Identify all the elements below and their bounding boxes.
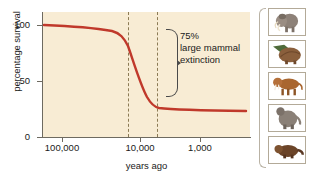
sabre-toothed-cat-icon xyxy=(269,73,305,99)
survival-chart: 100 50 0 percentage survival 100,000 10,… xyxy=(0,0,256,182)
survival-curve xyxy=(0,0,256,182)
extinct-animal-thumbnails xyxy=(256,0,312,182)
annotation-line-1: 75% xyxy=(180,30,240,42)
extinction-bracket xyxy=(166,29,178,97)
mammoth-icon xyxy=(269,9,305,35)
thumbnail-glyptodont xyxy=(268,40,306,68)
figure-root: 100 50 0 percentage survival 100,000 10,… xyxy=(0,0,312,182)
extinction-annotation: 75% large mammal extinction xyxy=(180,30,240,66)
annotation-line-2: large mammal xyxy=(180,42,240,54)
thumbnail-sabre-toothed-cat xyxy=(268,72,306,100)
giant-beaver-icon xyxy=(269,137,305,163)
glyptodont-icon xyxy=(269,41,305,67)
giant-ground-sloth-icon xyxy=(269,105,305,131)
annotation-line-3: extinction xyxy=(180,54,240,66)
thumbnail-mammoth xyxy=(268,8,306,36)
thumbnail-bracket xyxy=(259,8,266,168)
thumbnail-giant-beaver xyxy=(268,136,306,164)
thumbnail-giant-ground-sloth xyxy=(268,104,306,132)
